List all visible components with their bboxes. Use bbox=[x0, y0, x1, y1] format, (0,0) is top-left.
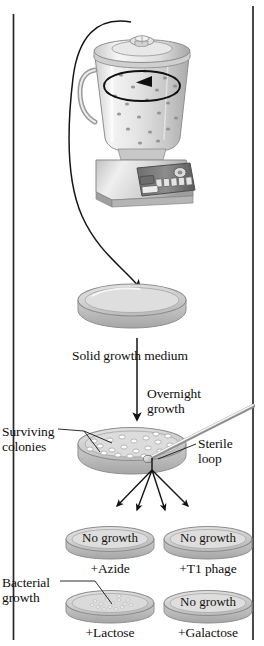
figure-illustration bbox=[0, 0, 264, 646]
plate-result-azide: No growth bbox=[62, 530, 158, 546]
blender-icon bbox=[80, 36, 195, 207]
plate-condition-t1-phage: +T1 phage bbox=[158, 561, 258, 576]
flow-arrows-branching bbox=[117, 470, 188, 510]
label-surviving-colonies: Surviving colonies bbox=[2, 424, 80, 454]
label-sterile-loop: Sterile loop bbox=[198, 436, 260, 466]
plate-surviving-colonies bbox=[78, 428, 186, 475]
plate-result-t1-phage: No growth bbox=[158, 530, 258, 546]
figure-panel: Solid growth medium Overnight growth Sur… bbox=[0, 0, 264, 646]
plate-result-galactose: No growth bbox=[158, 594, 258, 610]
label-overnight-growth: Overnight growth bbox=[147, 386, 237, 416]
label-bacterial-growth: Bacterial growth bbox=[2, 575, 80, 605]
label-solid-growth-medium: Solid growth medium bbox=[50, 348, 210, 363]
plate-condition-azide: +Azide bbox=[62, 561, 158, 576]
plate-condition-lactose: +Lactose bbox=[62, 625, 158, 640]
plate-solid-growth-medium bbox=[78, 284, 186, 328]
plate-condition-galactose: +Galactose bbox=[158, 625, 258, 640]
